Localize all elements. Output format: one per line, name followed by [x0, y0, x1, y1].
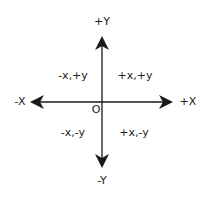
quadrant-3-label: -x,-y	[61, 127, 85, 139]
quadrant-2-label: -x,+y	[58, 70, 88, 82]
negative-y-label: -Y	[97, 175, 106, 187]
quadrant-1-label: +x,+y	[118, 70, 153, 82]
negative-x-label: -X	[15, 96, 26, 108]
origin-label: O	[92, 104, 101, 116]
positive-x-label: +X	[180, 96, 197, 108]
positive-y-label: +Y	[94, 16, 110, 28]
coordinate-diagram: +Y -Y -X +X O -x,+y +x,+y -x,-y +x,-y	[0, 0, 201, 206]
quadrant-4-label: +x,-y	[119, 127, 149, 139]
